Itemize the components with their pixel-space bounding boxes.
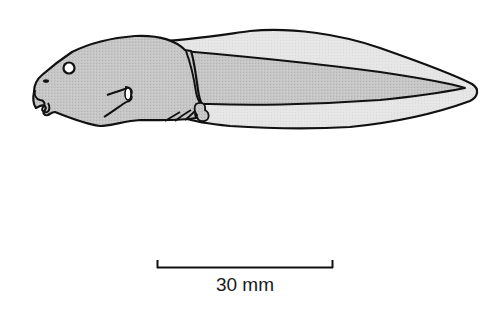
tadpole-body — [33, 36, 202, 126]
spiracle-opening — [125, 88, 131, 100]
scale-bar-label: 30 mm — [157, 274, 333, 296]
nostril — [43, 79, 49, 83]
eye — [64, 63, 75, 74]
scale-bar — [157, 260, 333, 268]
